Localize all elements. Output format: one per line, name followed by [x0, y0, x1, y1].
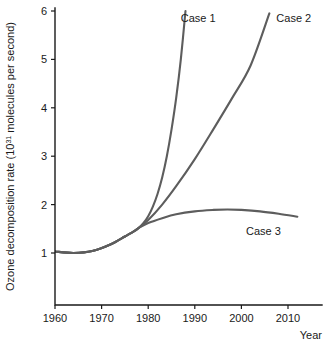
- chart-canvas: 196019701980199020002010 123456 Case 1Ca…: [0, 0, 325, 357]
- y-tick-label-6: 6: [41, 5, 47, 17]
- series-label-case-1: Case 1: [181, 12, 216, 24]
- x-tick-label-1970: 1970: [89, 312, 113, 324]
- axis-titles-group: YearOzone decomposition rate (1031 molec…: [4, 22, 322, 341]
- x-tick-label-1980: 1980: [136, 312, 160, 324]
- series-labels-group: Case 1Case 2Case 3: [181, 12, 311, 237]
- axis-spines: [55, 8, 322, 305]
- x-tick-label-2010: 2010: [276, 312, 300, 324]
- x-tick-label-1990: 1990: [183, 312, 207, 324]
- y-tick-label-4: 4: [41, 102, 47, 114]
- axes-group: [55, 8, 322, 305]
- x-axis-title: Year: [300, 329, 323, 341]
- y-axis-title: Ozone decomposition rate (1031 molecules…: [4, 22, 16, 291]
- y-tick-labels-group: 123456: [41, 5, 47, 259]
- series-label-case-3: Case 3: [246, 225, 281, 237]
- y-tick-label-5: 5: [41, 53, 47, 65]
- y-tick-label-2: 2: [41, 199, 47, 211]
- tick-marks-group: [51, 11, 288, 309]
- y-tick-label-3: 3: [41, 150, 47, 162]
- series-label-case-2: Case 2: [276, 12, 311, 24]
- ozone-decomposition-chart: 196019701980199020002010 123456 Case 1Ca…: [0, 0, 325, 357]
- x-tick-label-1960: 1960: [43, 312, 67, 324]
- y-tick-label-1: 1: [41, 247, 47, 259]
- data-curves-group: [55, 11, 297, 253]
- x-tick-label-2000: 2000: [229, 312, 253, 324]
- x-tick-labels-group: 196019701980199020002010: [43, 312, 300, 324]
